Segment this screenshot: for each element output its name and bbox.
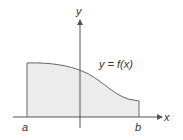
curve-label: y = f(x)	[98, 58, 133, 70]
x-axis-label: x	[163, 111, 170, 123]
bound-label-b: b	[135, 121, 141, 133]
y-axis-label: y	[75, 5, 83, 17]
bound-label-a: a	[22, 121, 28, 133]
area-diagram: y x y = f(x) a b	[0, 0, 183, 140]
